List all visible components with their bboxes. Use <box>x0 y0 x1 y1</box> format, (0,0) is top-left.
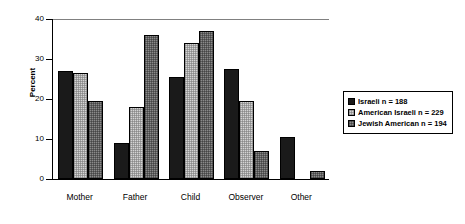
bar <box>184 43 199 179</box>
bar <box>169 77 184 179</box>
bar <box>199 31 214 179</box>
y-axis-tick-label: 0 <box>2 175 44 183</box>
bar <box>73 73 88 179</box>
bar <box>58 71 73 179</box>
bar <box>129 107 144 179</box>
legend-swatch-icon <box>348 98 355 105</box>
chart-legend: Israeli n = 188American Israeli n = 229J… <box>343 91 453 134</box>
y-axis-tick-label: 10 <box>2 135 44 143</box>
x-axis-tick-label: Mother <box>52 192 107 202</box>
x-axis-tick-label: Father <box>107 192 162 202</box>
bar-group <box>164 19 219 179</box>
bar-group <box>275 19 330 179</box>
x-axis-tick-label: Child <box>163 192 218 202</box>
bar <box>114 143 129 179</box>
legend-swatch-icon <box>348 120 355 127</box>
legend-item-label: Israeli n = 188 <box>358 98 407 106</box>
bar <box>88 101 103 179</box>
bar <box>254 151 269 179</box>
legend-item: American Israeli n = 229 <box>348 107 447 118</box>
legend-item-label: Jewish American n = 194 <box>358 120 447 128</box>
legend-item-label: American Israeli n = 229 <box>358 109 444 117</box>
y-axis-tick-label: 20 <box>2 95 44 103</box>
bar-group <box>219 19 274 179</box>
x-axis-tick-label: Other <box>274 192 329 202</box>
y-axis-tick-label: 30 <box>2 55 44 63</box>
bar <box>239 101 254 179</box>
plot-area <box>52 19 329 180</box>
bar <box>280 137 295 179</box>
bar <box>224 69 239 179</box>
legend-item: Israeli n = 188 <box>348 96 447 107</box>
legend-item: Jewish American n = 194 <box>348 118 447 129</box>
bar <box>310 171 325 179</box>
y-axis-tick-label: 40 <box>2 15 44 23</box>
x-axis-tick-label: Observer <box>218 192 273 202</box>
legend-swatch-icon <box>348 109 355 116</box>
bar-group <box>108 19 163 179</box>
bar-chart: Percent 010203040 MotherFatherChildObser… <box>0 0 465 224</box>
bar-group <box>53 19 108 179</box>
bar <box>144 35 159 179</box>
